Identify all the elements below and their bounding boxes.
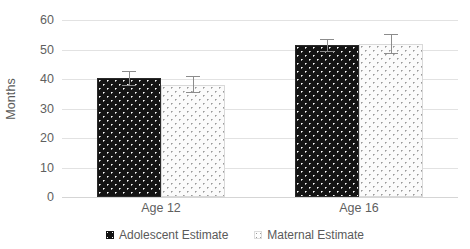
error-bar-cap-bottom [320,51,334,52]
bar [295,45,359,197]
y-axis-tick-label: 30 [28,103,54,116]
y-axis-tick-label: 60 [28,14,54,27]
bar [161,85,225,197]
legend-item[interactable]: Adolescent Estimate [106,228,228,242]
legend-swatch-icon [106,231,114,239]
bars-layer [62,20,458,197]
y-axis-tick-labels: 60 50 40 30 20 10 0 [28,0,54,249]
legend-swatch-icon [254,231,262,239]
error-bar-stem [193,76,194,93]
gridline [62,197,458,198]
error-bar-cap-top [384,34,398,35]
legend-item[interactable]: Maternal Estimate [254,228,364,242]
legend-item-label: Adolescent Estimate [119,228,228,242]
y-axis-tick-label: 50 [28,44,54,57]
error-bar-cap-bottom [186,92,200,93]
error-bar-cap-top [122,71,136,72]
error-bar-stem [129,71,130,86]
chart-legend: Adolescent EstimateMaternal Estimate [0,228,470,242]
error-bar-cap-bottom [384,53,398,54]
error-bar-stem [391,34,392,54]
legend-item-label: Maternal Estimate [267,228,364,242]
error-bar-cap-top [186,76,200,77]
x-axis-tick-labels: Age 12Age 16 [62,201,458,221]
y-axis-tick-label: 10 [28,162,54,175]
bar [97,78,161,197]
x-axis-tick-label: Age 12 [111,201,211,215]
error-bar-cap-bottom [122,85,136,86]
bar [359,44,423,197]
bar-chart: Months 60 50 40 30 20 10 0 Age 12Age 16 … [0,0,470,249]
x-axis-tick-label: Age 16 [309,201,409,215]
y-axis-tick-label: 40 [28,73,54,86]
plot-area [62,20,458,197]
y-axis-tick-label: 0 [28,191,54,204]
error-bar-cap-top [320,39,334,40]
y-axis-title: Months [4,64,18,134]
y-axis-tick-label: 20 [28,132,54,145]
